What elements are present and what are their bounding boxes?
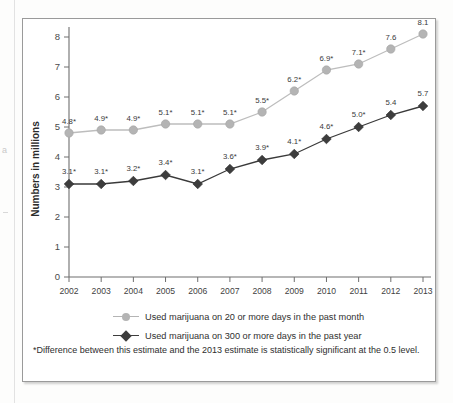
x-tick-label: 2012 <box>381 286 400 296</box>
data-point-marker[interactable] <box>194 120 202 128</box>
data-point-marker[interactable] <box>386 110 396 120</box>
data-point-label: 7.1* <box>352 48 366 57</box>
data-point-marker[interactable] <box>129 176 139 186</box>
y-tick-label: 7 <box>55 61 60 72</box>
data-point-marker[interactable] <box>290 87 298 95</box>
data-point-marker[interactable] <box>193 179 203 189</box>
data-point-marker[interactable] <box>225 164 235 174</box>
data-point-marker[interactable] <box>258 108 266 116</box>
data-point-label: 4.1* <box>287 137 301 146</box>
data-point-marker[interactable] <box>65 129 73 137</box>
series-line-a <box>69 34 423 133</box>
data-point-label: 5.1* <box>159 108 173 117</box>
data-point-label: 3.1* <box>191 167 205 176</box>
line-chart-svg: 012345678 200220032004200520062007200820… <box>23 19 437 309</box>
data-point-marker[interactable] <box>226 120 234 128</box>
data-point-label: 5.0* <box>352 110 366 119</box>
data-point-labels: 4.8*4.9*4.9*5.1*5.1*5.1*5.5*6.2*6.9*7.1*… <box>62 19 428 176</box>
data-point-marker[interactable] <box>96 179 106 189</box>
page-margin-rule <box>14 0 15 403</box>
y-tick-label: 3 <box>55 181 60 192</box>
y-tick-label: 4 <box>55 151 60 162</box>
x-tick-label: 2007 <box>220 286 239 296</box>
data-point-label: 4.9* <box>94 114 108 123</box>
chart-footnote: *Difference between this estimate and th… <box>33 344 427 357</box>
data-point-label: 3.9* <box>255 143 269 152</box>
data-series-group <box>64 30 428 189</box>
x-tick-label: 2006 <box>188 286 207 296</box>
x-tick-label: 2013 <box>413 286 432 296</box>
x-tick-label: 2005 <box>156 286 175 296</box>
data-point-label: 4.8* <box>62 117 76 126</box>
x-tick-label: 2010 <box>317 286 336 296</box>
y-tick-label: 2 <box>55 211 60 222</box>
data-point-label: 3.1* <box>94 167 108 176</box>
data-point-label: 5.4 <box>385 98 397 107</box>
data-point-marker[interactable] <box>418 101 428 111</box>
x-tick-label: 2003 <box>92 286 111 296</box>
data-point-label: 3.4* <box>159 158 173 167</box>
x-tick-label: 2004 <box>124 286 143 296</box>
data-point-marker[interactable] <box>257 155 267 165</box>
chart-container: 012345678 200220032004200520062007200820… <box>22 18 436 382</box>
legend-item-series-b[interactable]: Used marijuana on 300 or more days in th… <box>23 326 437 345</box>
legend-marker-diamond-icon <box>113 330 139 341</box>
data-point-label: 6.2* <box>287 75 301 84</box>
data-point-label: 7.6 <box>385 33 396 42</box>
data-point-marker[interactable] <box>419 30 427 38</box>
data-point-label: 3.1* <box>62 167 76 176</box>
y-tick-label: 6 <box>55 91 60 102</box>
legend-label-series-b: Used marijuana on 300 or more days in th… <box>145 331 362 341</box>
x-tick-label: 2011 <box>349 286 368 296</box>
data-point-marker[interactable] <box>322 66 330 74</box>
x-tick-label: 2002 <box>59 286 78 296</box>
data-point-label: 3.6* <box>223 152 237 161</box>
y-tick-label: 5 <box>55 121 60 132</box>
data-point-label: 3.2* <box>126 164 140 173</box>
data-point-marker[interactable] <box>322 134 332 144</box>
x-tick-label: 2009 <box>285 286 304 296</box>
y-tick-label: 0 <box>55 271 60 282</box>
x-tick-label: 2008 <box>253 286 272 296</box>
data-point-label: 5.1* <box>223 108 237 117</box>
data-point-label: 6.9* <box>320 54 334 63</box>
data-point-label: 4.6* <box>320 122 334 131</box>
y-axis: 012345678 <box>55 27 69 282</box>
margin-artifact-letter: a <box>2 145 7 155</box>
legend-label-series-a: Used marijuana on 20 or more days in the… <box>145 312 364 322</box>
x-axis: 2002200320042005200620072008200920102011… <box>59 277 432 296</box>
data-point-label: 5.1* <box>191 108 205 117</box>
data-point-label: 8.1 <box>418 19 429 27</box>
data-point-marker[interactable] <box>354 60 362 68</box>
y-tick-label: 8 <box>55 31 60 42</box>
data-point-label: 5.5* <box>255 96 269 105</box>
data-point-marker[interactable] <box>289 149 299 159</box>
data-point-label: 4.9* <box>126 114 140 123</box>
data-point-marker[interactable] <box>161 170 171 180</box>
data-point-marker[interactable] <box>354 122 364 132</box>
data-point-marker[interactable] <box>161 120 169 128</box>
chart-legend: Used marijuana on 20 or more days in the… <box>23 307 437 345</box>
legend-item-series-a[interactable]: Used marijuana on 20 or more days in the… <box>23 307 437 326</box>
data-point-marker[interactable] <box>97 126 105 134</box>
y-axis-title: Numbers in millions <box>30 121 41 217</box>
legend-marker-circle-icon <box>113 311 139 322</box>
margin-artifact-dash <box>3 212 8 213</box>
data-point-marker[interactable] <box>387 45 395 53</box>
data-point-marker[interactable] <box>129 126 137 134</box>
y-tick-label: 1 <box>55 241 60 252</box>
data-point-label: 5.7 <box>418 89 429 98</box>
